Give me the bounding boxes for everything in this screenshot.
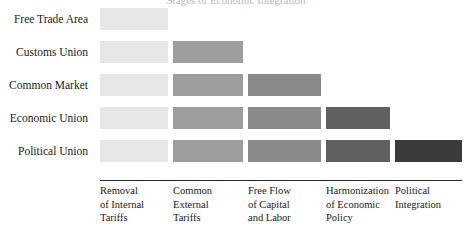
chart-title-text: Stages of Economic Integration [167, 0, 306, 6]
economic-integration-stages-chart: Stages of Economic Integration Free Trad… [0, 0, 472, 237]
column-label-line: Tariffs [100, 211, 144, 225]
column-label-line: Harmonization [326, 184, 389, 198]
bar-row [100, 8, 462, 30]
bottom-axis-rule [100, 180, 462, 181]
bar-segment [100, 140, 168, 162]
bar-segment [248, 74, 321, 96]
bar-segment [173, 140, 243, 162]
column-label-line: Policy [326, 211, 389, 225]
column-label-line: and Labor [248, 211, 291, 225]
column-label-line: Tariffs [173, 211, 212, 225]
row-label-axis: Free Trade AreaCustoms UnionCommon Marke… [0, 8, 96, 173]
column-label-4: Harmonizationof EconomicPolicy [326, 184, 389, 225]
row-label-political-union: Political Union [18, 140, 88, 162]
column-label-line: of Economic [326, 198, 389, 212]
bar-segment [173, 41, 243, 63]
row-label-customs-union: Customs Union [16, 41, 88, 63]
bar-row [100, 74, 462, 96]
column-label-line: Common [173, 184, 212, 198]
column-label-3: Free Flowof Capitaland Labor [248, 184, 291, 225]
bar-row [100, 41, 462, 63]
row-label-free-trade-area: Free Trade Area [14, 8, 88, 30]
column-label-2: CommonExternalTariffs [173, 184, 212, 225]
column-label-5: PoliticalIntegration [395, 184, 441, 211]
bar-row [100, 107, 462, 129]
bar-plot-area [100, 8, 462, 173]
bar-segment [326, 107, 390, 129]
chart-title-cropped: Stages of Economic Integration [0, 0, 472, 7]
column-label-line: Removal [100, 184, 144, 198]
bar-segment [395, 140, 462, 162]
bar-segment [100, 41, 168, 63]
row-label-common-market: Common Market [9, 74, 88, 96]
column-label-line: of Internal [100, 198, 144, 212]
column-label-line: of Capital [248, 198, 291, 212]
column-label-1: Removalof InternalTariffs [100, 184, 144, 225]
column-label-line: Integration [395, 198, 441, 212]
bar-segment [173, 74, 243, 96]
bar-segment [100, 8, 168, 30]
bar-segment [248, 107, 321, 129]
row-label-economic-union: Economic Union [10, 107, 88, 129]
bar-row [100, 140, 462, 162]
column-label-line: External [173, 198, 212, 212]
bar-segment [173, 107, 243, 129]
column-label-axis: Removalof InternalTariffsCommonExternalT… [100, 184, 472, 234]
bar-segment [248, 140, 321, 162]
bar-segment [326, 140, 390, 162]
column-label-line: Political [395, 184, 441, 198]
bar-segment [100, 74, 168, 96]
column-label-line: Free Flow [248, 184, 291, 198]
bar-segment [100, 107, 168, 129]
